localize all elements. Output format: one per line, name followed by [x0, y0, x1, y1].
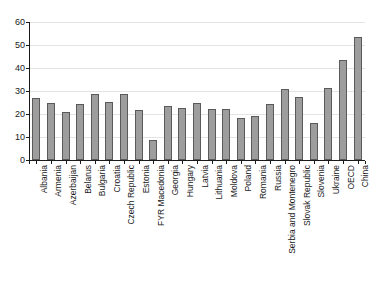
x-axis-tick-label: Georgia — [171, 165, 180, 195]
x-axis-tick-mark — [139, 161, 140, 164]
bar — [62, 112, 70, 160]
y-axis-tick-label: 40 — [15, 64, 25, 73]
x-axis-tick-label: Armenia — [54, 165, 63, 197]
bar — [237, 118, 245, 160]
x-axis-tick-label: Azerbaijan — [69, 165, 78, 205]
y-axis-tick-label: 0 — [20, 156, 25, 165]
x-axis-tick-mark — [241, 161, 242, 164]
bar-slot — [29, 22, 44, 160]
x-axis-tick-mark — [51, 161, 52, 164]
bar — [76, 104, 84, 160]
x-axis-tick-label-wrap: Hungary — [186, 165, 195, 197]
bar — [310, 123, 318, 160]
x-axis-tick-mark — [314, 161, 315, 164]
bar-slot — [234, 22, 249, 160]
x-axis-tick-label: FYR Macedonia — [157, 165, 166, 226]
x-axis-tick-label-wrap: Serbia and Montenegro — [288, 165, 297, 254]
bar-slot — [321, 22, 336, 160]
bar — [91, 94, 99, 160]
y-axis-tick-label: 20 — [15, 110, 25, 119]
x-axis-tick-label-wrap: Russia — [274, 165, 283, 191]
y-axis-tick-label: 10 — [15, 133, 25, 142]
x-axis-tick-label-wrap: Romania — [259, 165, 268, 199]
x-axis-tick-label: Estonia — [142, 165, 151, 193]
x-axis-tick-mark — [168, 161, 169, 164]
x-axis-tick-label-wrap: Moldova — [230, 165, 239, 197]
bar-slot — [87, 22, 102, 160]
x-axis-tick-mark — [212, 161, 213, 164]
x-axis-tick-label-wrap: FYR Macedonia — [157, 165, 166, 226]
bar — [208, 109, 216, 160]
x-axis-tick-mark — [36, 161, 37, 164]
bar — [164, 106, 172, 160]
x-axis-tick-label: Bulgaria — [98, 165, 107, 196]
x-axis-tick-mark — [285, 161, 286, 164]
x-axis-tick-label: Lithuania — [215, 165, 224, 200]
x-axis-tick-label-wrap: Albania — [40, 165, 49, 193]
bar — [32, 98, 40, 160]
x-axis-tick-label-wrap: China — [361, 165, 370, 187]
x-axis-tick-mark — [270, 161, 271, 164]
bar-slot — [292, 22, 307, 160]
bar-slot — [160, 22, 175, 160]
bar — [47, 103, 55, 160]
bar — [324, 88, 332, 160]
bar — [266, 104, 274, 160]
x-axis-tick-label: Czech Republic — [127, 165, 136, 225]
bar — [251, 116, 259, 160]
bar-slot — [263, 22, 278, 160]
x-axis-tick-label-wrap: Azerbaijan — [69, 165, 78, 205]
bar — [105, 102, 113, 160]
bar-slot — [336, 22, 351, 160]
x-axis-tick-label-wrap: OECD — [347, 165, 356, 190]
x-axis-tick-mark — [109, 161, 110, 164]
bar-slot — [117, 22, 132, 160]
x-axis-tick-label-wrap: Croatia — [113, 165, 122, 192]
bar — [149, 140, 157, 160]
y-axis-tick-label: 60 — [15, 18, 25, 27]
x-axis-tick-label: OECD — [347, 165, 356, 190]
x-axis-tick-label: Moldova — [230, 165, 239, 197]
x-axis-edge-tick-mark — [365, 161, 366, 164]
x-axis-tick-label: Poland — [244, 165, 253, 191]
x-axis-tick-label-wrap: Georgia — [171, 165, 180, 195]
y-axis-tick-label: 50 — [15, 41, 25, 50]
x-axis-tick-label-wrap: Slovenia — [317, 165, 326, 198]
x-axis-tick-mark — [153, 161, 154, 164]
x-axis-tick-label: Russia — [274, 165, 283, 191]
bar-slot — [248, 22, 263, 160]
x-axis-tick-label-wrap: Belarus — [84, 165, 93, 194]
x-axis-tick-label-wrap: Slovak Republic — [303, 165, 312, 226]
bar — [339, 60, 347, 160]
bar — [135, 110, 143, 160]
y-axis-tick-label: 30 — [15, 87, 25, 96]
bar-slot — [58, 22, 73, 160]
x-axis-tick-mark — [66, 161, 67, 164]
x-axis-tick-mark — [226, 161, 227, 164]
x-axis-tick-label: Romania — [259, 165, 268, 199]
x-axis-tick-mark — [343, 161, 344, 164]
x-axis-tick-labels: AlbaniaArmeniaAzerbaijanBelarusBulgariaC… — [29, 165, 365, 290]
x-axis-tick-mark — [299, 161, 300, 164]
x-axis-tick-label: Ukraine — [332, 165, 341, 194]
x-axis-tick-mark — [358, 161, 359, 164]
bar-slot — [350, 22, 365, 160]
bar — [354, 37, 362, 161]
x-axis-tick-label-wrap: Lithuania — [215, 165, 224, 200]
bar-slot — [204, 22, 219, 160]
x-axis-tick-label: China — [361, 165, 370, 187]
bar-series — [29, 22, 365, 160]
x-axis-tick-label: Albania — [40, 165, 49, 193]
bar — [295, 97, 303, 160]
x-axis-tick-label-wrap: Czech Republic — [127, 165, 136, 225]
bar — [222, 109, 230, 160]
bar-slot — [131, 22, 146, 160]
x-axis-tick-label: Croatia — [113, 165, 122, 192]
x-axis-tick-mark — [197, 161, 198, 164]
x-axis-tick-label: Latvia — [201, 165, 210, 188]
x-axis-tick-label: Hungary — [186, 165, 195, 197]
x-axis-tick-mark — [80, 161, 81, 164]
bar-chart: 0102030405060 AlbaniaArmeniaAzerbaijanBe… — [0, 0, 370, 292]
x-axis-tick-label: Serbia and Montenegro — [288, 165, 297, 254]
x-axis-tick-label: Slovak Republic — [303, 165, 312, 226]
